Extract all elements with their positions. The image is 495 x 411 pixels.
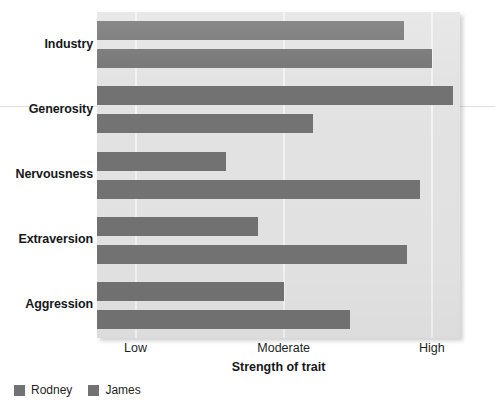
category-label-generosity: Generosity: [1, 102, 93, 116]
y-axis-category-labels: Industry Generosity Nervousness Extraver…: [0, 12, 93, 338]
chart-legend: Rodney James: [14, 383, 141, 397]
x-tick-label-low: Low: [124, 341, 147, 355]
legend-swatch-icon: [88, 385, 99, 396]
bar-chart-figure: Industry Generosity Nervousness Extraver…: [0, 0, 495, 411]
bar-aggression-james: [97, 310, 350, 329]
bar-generosity-rodney: [97, 86, 453, 105]
bar-extraversion-james: [97, 245, 407, 264]
x-axis-tick-labels: Low Moderate High: [97, 341, 460, 359]
bar-nervousness-james: [97, 180, 420, 199]
bar-aggression-rodney: [97, 282, 284, 301]
x-tick-label-high: High: [419, 341, 445, 355]
legend-swatch-icon: [14, 385, 25, 396]
legend-label-rodney: Rodney: [31, 383, 72, 397]
legend-item-james: James: [88, 383, 140, 397]
category-label-extraversion: Extraversion: [1, 232, 93, 246]
category-label-industry: Industry: [1, 37, 93, 51]
bar-industry-rodney: [97, 21, 404, 40]
bar-generosity-james: [97, 114, 313, 133]
category-label-nervousness: Nervousness: [1, 167, 93, 181]
legend-label-james: James: [105, 383, 140, 397]
bar-extraversion-rodney: [97, 217, 258, 236]
plot-area: [97, 12, 460, 338]
x-tick-label-moderate: Moderate: [257, 341, 310, 355]
legend-item-rodney: Rodney: [14, 383, 72, 397]
category-label-aggression: Aggression: [1, 297, 93, 311]
bar-nervousness-rodney: [97, 152, 226, 171]
bar-industry-james: [97, 49, 432, 68]
x-axis-title: Strength of trait: [97, 360, 460, 374]
